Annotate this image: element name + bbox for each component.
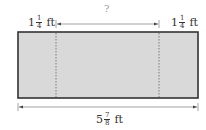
right-whole: 1 bbox=[171, 17, 178, 28]
left-section-label: 1 1 4 ft bbox=[28, 15, 55, 30]
right-section-label: 1 1 4 ft bbox=[171, 15, 198, 30]
total-dimension-arrow bbox=[18, 103, 198, 111]
rectangle bbox=[18, 32, 198, 98]
total-fraction: 7 8 bbox=[104, 112, 110, 127]
middle-dimension-arrow bbox=[56, 20, 159, 28]
right-denominator: 4 bbox=[179, 23, 185, 30]
left-whole: 1 bbox=[28, 17, 35, 28]
total-unit: ft bbox=[114, 114, 123, 125]
unknown-middle-label: ? bbox=[104, 3, 109, 14]
total-whole: 5 bbox=[96, 114, 103, 125]
right-fraction: 1 4 bbox=[179, 15, 185, 30]
left-fraction: 1 4 bbox=[36, 15, 42, 30]
total-denominator: 8 bbox=[104, 120, 110, 127]
left-unit: ft bbox=[46, 17, 55, 28]
total-width-label: 5 7 8 ft bbox=[96, 112, 123, 127]
left-denominator: 4 bbox=[36, 23, 42, 30]
right-unit: ft bbox=[189, 17, 198, 28]
